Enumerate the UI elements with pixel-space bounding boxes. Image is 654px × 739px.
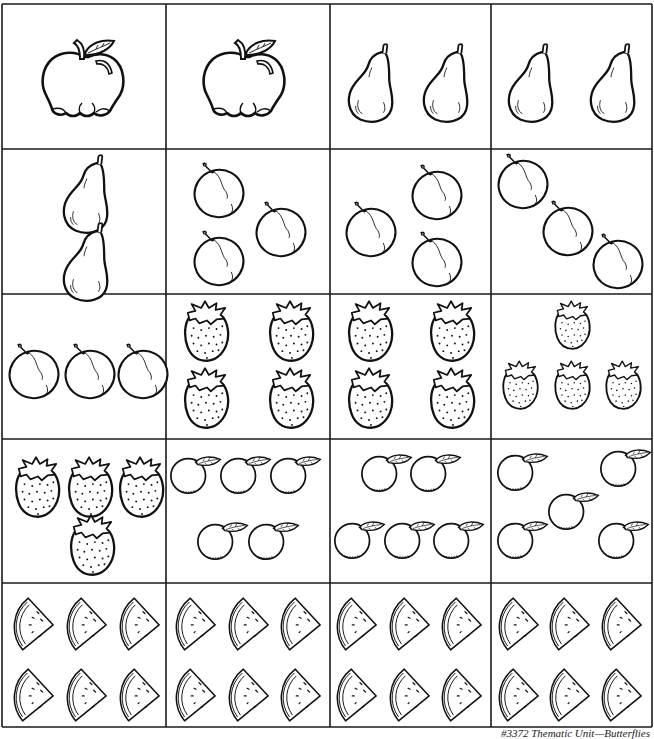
orange-icon bbox=[249, 523, 298, 559]
plum-icon bbox=[189, 231, 249, 290]
fruit-cells bbox=[4, 40, 650, 721]
orange-icon bbox=[335, 522, 384, 558]
apple-icon bbox=[204, 40, 285, 116]
orange-icon bbox=[434, 522, 483, 558]
cell-4-4 bbox=[498, 450, 650, 558]
cell-5-3 bbox=[337, 598, 481, 721]
strawberry-icon bbox=[555, 361, 589, 409]
strawberry-icon bbox=[431, 301, 474, 361]
orange-icon bbox=[171, 457, 220, 493]
cell-5-1 bbox=[14, 598, 159, 721]
plum-icon bbox=[251, 202, 311, 261]
cell-2-3 bbox=[341, 165, 467, 291]
watermelon-slice-icon bbox=[337, 598, 376, 650]
strawberry-icon bbox=[606, 361, 640, 409]
watermelon-slice-icon bbox=[550, 598, 589, 650]
orange-icon bbox=[599, 522, 648, 558]
cell-3-3 bbox=[349, 301, 474, 428]
watermelon-slice-icon bbox=[602, 598, 641, 650]
watermelon-slice-icon bbox=[67, 669, 106, 721]
cell-3-2 bbox=[185, 301, 313, 428]
watermelon-slice-icon bbox=[390, 669, 429, 721]
orange-icon bbox=[498, 454, 547, 490]
plum-icon bbox=[493, 154, 553, 213]
watermelon-slice-icon bbox=[442, 598, 481, 650]
watermelon-slice-icon bbox=[602, 669, 641, 721]
plum-icon bbox=[407, 165, 467, 224]
orange-icon bbox=[498, 522, 547, 558]
orange-icon bbox=[601, 450, 650, 486]
cell-5-2 bbox=[176, 598, 320, 721]
watermelon-slice-icon bbox=[281, 669, 320, 721]
cell-2-4 bbox=[493, 154, 648, 293]
cell-1-1 bbox=[43, 40, 124, 116]
pear-icon bbox=[349, 44, 393, 122]
watermelon-slice-icon bbox=[14, 669, 53, 721]
watermelon-slice-icon bbox=[337, 669, 376, 721]
pear-icon bbox=[64, 223, 108, 301]
strawberry-icon bbox=[270, 301, 313, 361]
cell-1-2 bbox=[204, 40, 285, 116]
pear-icon bbox=[509, 44, 553, 122]
cell-4-3 bbox=[335, 455, 483, 558]
strawberry-icon bbox=[185, 368, 228, 428]
strawberry-icon bbox=[349, 368, 392, 428]
plum-icon bbox=[538, 201, 598, 260]
watermelon-slice-icon bbox=[120, 598, 159, 650]
plum-icon bbox=[4, 344, 64, 403]
plum-icon bbox=[341, 202, 401, 261]
pear-icon bbox=[64, 155, 108, 233]
plum-icon bbox=[588, 234, 648, 293]
cell-1-4 bbox=[509, 44, 635, 122]
apple-icon bbox=[43, 40, 124, 116]
watermelon-slice-icon bbox=[442, 669, 481, 721]
strawberry-icon bbox=[270, 368, 313, 428]
watermelon-slice-icon bbox=[120, 669, 159, 721]
pear-icon bbox=[591, 44, 635, 122]
watermelon-slice-icon bbox=[67, 598, 106, 650]
strawberry-icon bbox=[555, 301, 589, 349]
strawberry-icon bbox=[349, 301, 392, 361]
watermelon-slice-icon bbox=[229, 669, 268, 721]
plum-icon bbox=[113, 344, 173, 403]
strawberry-icon bbox=[71, 515, 114, 575]
strawberry-icon bbox=[431, 368, 474, 428]
cell-3-1 bbox=[4, 344, 173, 403]
cell-2-2 bbox=[189, 163, 311, 290]
orange-icon bbox=[221, 457, 270, 493]
orange-icon bbox=[549, 493, 598, 529]
cell-5-4 bbox=[499, 598, 641, 721]
plum-icon bbox=[60, 344, 120, 403]
footer-credit: #3372 Thematic Unit—Butterflies bbox=[501, 727, 650, 739]
cell-1-3 bbox=[349, 44, 468, 122]
watermelon-slice-icon bbox=[229, 598, 268, 650]
strawberry-icon bbox=[16, 457, 59, 517]
watermelon-slice-icon bbox=[499, 669, 538, 721]
cell-2-1 bbox=[64, 155, 108, 301]
cell-4-2 bbox=[171, 457, 320, 559]
pear-icon bbox=[424, 44, 468, 122]
watermelon-slice-icon bbox=[14, 598, 53, 650]
cell-3-4 bbox=[503, 301, 640, 409]
orange-icon bbox=[271, 457, 320, 493]
plum-icon bbox=[407, 232, 467, 291]
strawberry-icon bbox=[185, 301, 228, 361]
orange-icon bbox=[362, 455, 411, 491]
watermelon-slice-icon bbox=[499, 598, 538, 650]
strawberry-icon bbox=[503, 361, 537, 409]
orange-icon bbox=[198, 523, 247, 559]
watermelon-slice-icon bbox=[390, 598, 429, 650]
orange-icon bbox=[411, 455, 460, 491]
watermelon-slice-icon bbox=[176, 598, 215, 650]
orange-icon bbox=[385, 522, 434, 558]
watermelon-slice-icon bbox=[281, 598, 320, 650]
strawberry-icon bbox=[120, 457, 163, 517]
plum-icon bbox=[189, 163, 249, 222]
strawberry-icon bbox=[69, 457, 112, 517]
watermelon-slice-icon bbox=[176, 669, 215, 721]
watermelon-slice-icon bbox=[550, 669, 589, 721]
cell-4-1 bbox=[16, 457, 163, 575]
